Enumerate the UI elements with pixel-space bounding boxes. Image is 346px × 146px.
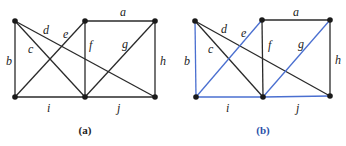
vertex-TR	[327, 17, 333, 23]
edge-label-f: f	[268, 38, 273, 52]
caption-a: (a)	[79, 124, 92, 137]
vertex-TL	[12, 18, 18, 24]
vertex-BM	[82, 94, 88, 100]
edge-label-b: b	[184, 54, 190, 68]
vertex-TM	[82, 18, 88, 24]
vertex-TM	[259, 17, 265, 23]
edge-label-g: g	[122, 37, 128, 51]
graph-figure: abcdefghij abcdefghij (a) (b)	[0, 0, 346, 146]
vertex-TL	[192, 18, 198, 24]
vertex-BL	[193, 94, 199, 100]
edge-label-h: h	[335, 53, 341, 67]
caption-b: (b)	[256, 124, 270, 137]
edge-label-d: d	[43, 23, 50, 37]
edge-label-c: c	[28, 42, 34, 56]
edge-label-i: i	[226, 101, 229, 115]
vertex-TR	[152, 18, 158, 24]
edge-label-a: a	[120, 5, 126, 19]
edge-label-b: b	[6, 54, 12, 68]
edge-label-i: i	[47, 101, 50, 115]
graph-a: abcdefghij	[6, 5, 166, 115]
edge-label-j: j	[294, 101, 300, 115]
edge-label-a: a	[293, 5, 299, 19]
edge-label-d: d	[221, 22, 228, 36]
edge-g	[85, 21, 155, 97]
edge-label-j: j	[115, 101, 121, 115]
edge-j	[263, 96, 330, 97]
edge-label-f: f	[89, 38, 94, 52]
edge-label-g: g	[298, 37, 304, 51]
vertex-BM	[260, 94, 266, 100]
vertex-BR	[327, 93, 333, 99]
edge-label-e: e	[63, 27, 69, 41]
edge-label-e: e	[241, 26, 247, 40]
edge-f	[262, 20, 263, 97]
vertex-BL	[12, 94, 18, 100]
edge-g	[263, 20, 330, 97]
vertex-BR	[152, 94, 158, 100]
edge-b	[195, 21, 196, 97]
graph-b: abcdefghij	[184, 5, 341, 115]
edge-label-h: h	[160, 54, 166, 68]
edge-label-c: c	[208, 42, 214, 56]
